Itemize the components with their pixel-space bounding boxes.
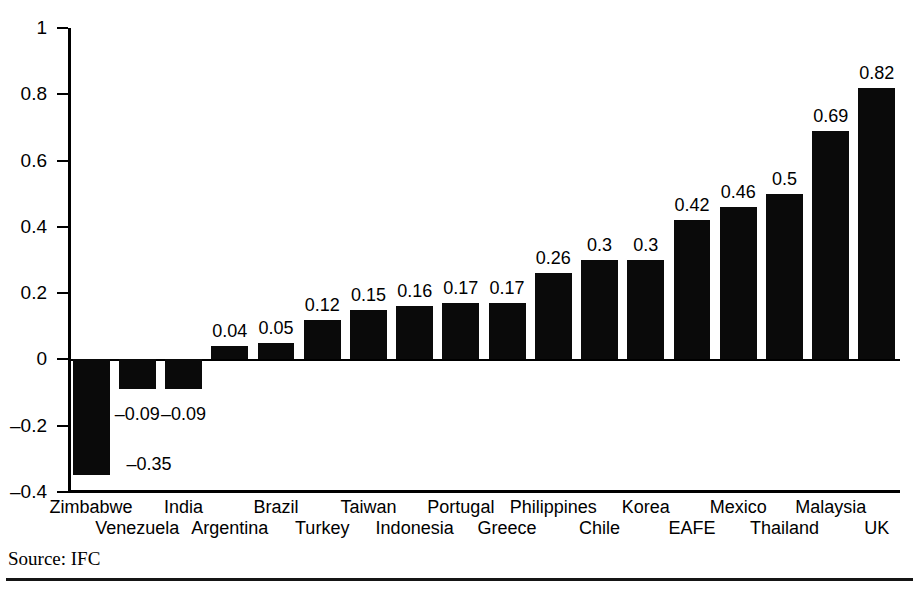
y-axis-tick <box>57 93 68 95</box>
source-note: Source: IFC <box>8 549 100 568</box>
bar[interactable] <box>165 359 202 389</box>
bar[interactable] <box>350 310 387 360</box>
bar[interactable] <box>442 303 479 359</box>
y-axis-tick-label: 0.8 <box>0 84 47 103</box>
y-axis-tick-label: –0.2 <box>0 416 47 435</box>
bar[interactable] <box>627 260 664 359</box>
y-axis-tick <box>57 226 68 228</box>
y-axis-tick <box>57 491 68 493</box>
bar[interactable] <box>581 260 618 359</box>
footer-divider <box>6 578 913 581</box>
bar[interactable] <box>396 306 433 359</box>
bar[interactable] <box>720 207 757 359</box>
bar-group[interactable]: 0.3 <box>627 28 664 492</box>
bar-group[interactable]: –0.09 <box>165 28 202 492</box>
y-axis-tick-label: 0.2 <box>0 283 47 302</box>
bar[interactable] <box>119 359 156 389</box>
x-axis-label: Malaysia <box>761 497 901 517</box>
bar-group[interactable]: 0.69 <box>812 28 849 492</box>
bar-group[interactable]: 0.15 <box>350 28 387 492</box>
y-axis-tick-label: 0 <box>0 349 47 368</box>
x-axis-label: UK <box>807 518 919 538</box>
y-axis-tick <box>57 160 68 162</box>
y-axis-tick <box>57 358 68 360</box>
bar[interactable] <box>766 194 803 360</box>
y-axis-tick <box>57 425 68 427</box>
bar-group[interactable]: 0.12 <box>304 28 341 492</box>
bar[interactable] <box>304 320 341 360</box>
chart-title-cropped <box>0 0 919 9</box>
bar-value-label: 0.82 <box>817 64 919 82</box>
bar-group[interactable]: 0.17 <box>442 28 479 492</box>
bar-group[interactable]: 0.42 <box>674 28 711 492</box>
y-axis-tick-label: 1 <box>0 18 47 37</box>
bar-group[interactable]: 0.26 <box>535 28 572 492</box>
y-axis-tick-label: 0.4 <box>0 217 47 236</box>
y-axis-tick <box>57 27 68 29</box>
bar-group[interactable]: 0.82 <box>858 28 895 492</box>
x-axis-labels: ZimbabweVenezuelaIndiaArgentinaBrazilTur… <box>68 497 900 541</box>
bar-group[interactable]: 0.46 <box>720 28 757 492</box>
bar[interactable] <box>489 303 526 359</box>
y-axis-tick <box>57 292 68 294</box>
bar[interactable] <box>812 131 849 360</box>
bar-group[interactable]: 0.16 <box>396 28 433 492</box>
bar-group[interactable]: 0.05 <box>258 28 295 492</box>
y-axis-tick-label: 0.6 <box>0 151 47 170</box>
chart-figure: 10.80.60.40.20–0.2–0.4 –0.35–0.09–0.090.… <box>0 0 919 590</box>
bar-group[interactable]: 0.5 <box>766 28 803 492</box>
bar[interactable] <box>211 346 248 359</box>
bar[interactable] <box>535 273 572 359</box>
y-axis-line <box>68 28 71 492</box>
bar[interactable] <box>258 343 295 360</box>
bar[interactable] <box>674 220 711 359</box>
bar-group[interactable]: 0.3 <box>581 28 618 492</box>
bar[interactable] <box>858 88 895 360</box>
plot-area: 10.80.60.40.20–0.2–0.4 –0.35–0.09–0.090.… <box>68 28 900 492</box>
bar-group[interactable]: 0.04 <box>211 28 248 492</box>
